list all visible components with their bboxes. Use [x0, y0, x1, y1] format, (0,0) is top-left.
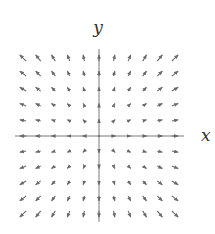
vector-arrow: [157, 211, 162, 217]
vector-arrow: [128, 120, 131, 121]
vector-arrow: [157, 196, 162, 201]
vector-arrow: [52, 151, 56, 152]
vector-arrow: [52, 55, 56, 61]
vector-arrow: [52, 71, 56, 76]
vector-arrow: [128, 71, 131, 76]
vector-arrow: [143, 181, 147, 185]
vector-arrow: [20, 151, 26, 152]
vector-arrow: [36, 71, 41, 76]
vector-arrow: [83, 104, 84, 107]
vector-arrow: [114, 87, 115, 91]
vector-arrow: [20, 166, 26, 169]
vector-arrow: [52, 166, 56, 169]
vector-arrow: [172, 71, 178, 76]
vector-arrow: [20, 181, 26, 185]
vector-arrow: [20, 104, 26, 107]
vector-arrow: [36, 55, 41, 61]
vector-arrow: [157, 120, 162, 121]
vector-arrow: [67, 211, 70, 217]
vector-arrow: [128, 181, 131, 185]
vector-arrow: [114, 104, 115, 107]
vector-arrow: [20, 120, 26, 121]
vector-arrow: [67, 196, 70, 201]
y-axis-label: y: [92, 17, 103, 37]
vector-arrow: [128, 151, 131, 152]
vector-arrow: [114, 181, 115, 185]
vector-arrow: [20, 211, 26, 217]
vector-arrow: [113, 151, 115, 153]
vector-arrow: [67, 181, 70, 185]
vector-arrow: [83, 55, 84, 61]
vector-arrow: [83, 166, 84, 169]
vector-arrow: [83, 211, 84, 217]
vector-arrow: [83, 87, 84, 91]
vector-arrow: [143, 166, 147, 169]
vector-arrow: [114, 71, 115, 76]
x-axis-label: x: [201, 125, 211, 145]
vector-arrow: [67, 55, 70, 61]
vector-arrow: [128, 87, 131, 91]
vector-arrow: [157, 151, 162, 152]
vector-arrow: [172, 87, 178, 91]
vector-arrow: [67, 71, 70, 76]
vector-arrow: [20, 87, 26, 91]
vector-arrow: [157, 166, 162, 169]
vector-arrow: [67, 87, 70, 91]
vector-arrow: [36, 166, 41, 169]
vector-arrow: [143, 71, 147, 76]
vector-arrow: [114, 166, 115, 169]
vector-arrow: [20, 71, 26, 76]
vector-arrow: [67, 166, 70, 169]
vector-arrow: [157, 55, 162, 61]
vector-arrow: [143, 87, 147, 91]
vector-arrow: [172, 181, 178, 185]
vector-arrow: [157, 71, 162, 76]
vector-arrow: [114, 55, 115, 61]
vector-arrow: [67, 104, 70, 107]
vector-arrow: [113, 120, 115, 122]
vector-arrow: [128, 55, 131, 61]
vector-arrow: [20, 196, 26, 201]
vector-arrow: [36, 104, 41, 107]
vector-field-diagram: x y: [0, 0, 215, 234]
vector-arrow: [36, 181, 41, 185]
vector-arrow: [67, 151, 70, 152]
vector-arrow: [20, 55, 26, 61]
vector-arrow: [36, 151, 41, 152]
vector-arrow: [157, 87, 162, 91]
vector-arrow: [52, 196, 56, 201]
vector-arrow: [172, 166, 178, 169]
vector-arrow: [83, 71, 84, 76]
vector-arrow: [128, 104, 131, 107]
vector-arrow: [172, 196, 178, 201]
vector-arrow: [83, 196, 84, 201]
vector-arrow: [143, 151, 147, 152]
vector-arrow: [143, 196, 147, 201]
vector-arrow: [36, 120, 41, 121]
vector-arrow: [114, 196, 115, 201]
vector-arrow: [52, 211, 56, 217]
vector-arrow: [157, 181, 162, 185]
vector-arrow: [143, 104, 147, 107]
vector-arrow: [83, 181, 84, 185]
vector-arrow: [52, 104, 56, 107]
vector-arrow: [83, 120, 85, 122]
vector-arrow: [52, 87, 56, 91]
vector-arrow: [172, 120, 178, 121]
vector-arrow: [67, 120, 70, 121]
vector-arrow: [52, 181, 56, 185]
vector-arrow: [128, 196, 131, 201]
vector-arrow: [143, 211, 147, 217]
vector-arrow: [52, 120, 56, 121]
vector-arrow: [36, 211, 41, 217]
vector-arrow: [128, 211, 131, 217]
vector-arrow: [172, 151, 178, 152]
vector-arrow: [114, 211, 115, 217]
vector-arrow: [172, 211, 178, 217]
vector-arrow: [143, 120, 147, 121]
vector-arrow: [36, 87, 41, 91]
vector-arrow: [172, 55, 178, 61]
vector-arrow: [143, 55, 147, 61]
vector-arrow: [36, 196, 41, 201]
vector-arrow: [83, 151, 85, 153]
